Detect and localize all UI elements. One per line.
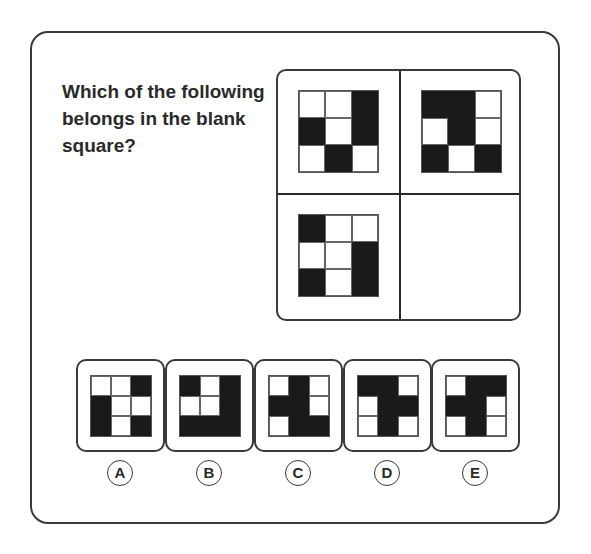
- filled-cell-r2c3: [352, 118, 378, 145]
- filled-cell-r2c2: [378, 396, 398, 416]
- empty-cell-r3c3: [398, 416, 418, 436]
- empty-cell-r1c1: [269, 376, 289, 396]
- matrix-cell-bottom-left: [298, 214, 379, 297]
- empty-cell-r3c1: [446, 416, 466, 436]
- empty-cell-r2c3: [309, 396, 329, 416]
- empty-cell-r1c2: [111, 376, 131, 396]
- filled-cell-r3c1: [91, 416, 111, 436]
- filled-cell-r1c2: [466, 376, 486, 396]
- filled-cell-r1c2: [378, 376, 398, 396]
- option-a-label[interactable]: A: [107, 460, 133, 486]
- filled-cell-r2c2: [448, 118, 474, 145]
- option-e-card[interactable]: [431, 359, 520, 452]
- filled-cell-r3c2: [466, 416, 486, 436]
- empty-cell-r2c2: [200, 396, 220, 416]
- filled-cell-r2c3: [352, 242, 378, 269]
- filled-cell-r2c3: [398, 396, 418, 416]
- empty-cell-r1c3: [398, 376, 418, 396]
- empty-cell-r2c1: [299, 242, 325, 269]
- option-c-label[interactable]: C: [285, 460, 311, 486]
- option-c-pattern: [268, 375, 330, 437]
- filled-cell-r1c1: [422, 91, 448, 118]
- empty-cell-r2c1: [358, 396, 378, 416]
- filled-cell-r3c1: [180, 416, 200, 436]
- filled-cell-r3c3: [131, 416, 151, 436]
- filled-cell-r1c1: [180, 376, 200, 396]
- empty-cell-r1c2: [325, 91, 351, 118]
- empty-cell-r1c1: [299, 91, 325, 118]
- filled-cell-r3c1: [422, 145, 448, 172]
- filled-cell-r1c3: [131, 376, 151, 396]
- filled-cell-r1c3: [220, 376, 240, 396]
- filled-cell-r2c2: [466, 396, 486, 416]
- empty-cell-r3c1: [358, 416, 378, 436]
- filled-cell-r3c3: [220, 416, 240, 436]
- empty-cell-r1c1: [91, 376, 111, 396]
- filled-cell-r1c3: [352, 91, 378, 118]
- option-a-pattern: [90, 375, 152, 437]
- filled-cell-r3c3: [352, 269, 378, 296]
- option-d-label[interactable]: D: [374, 460, 400, 486]
- empty-cell-r2c3: [475, 118, 501, 145]
- empty-cell-r1c3: [352, 215, 378, 242]
- empty-cell-r3c1: [299, 145, 325, 172]
- empty-cell-r1c2: [200, 376, 220, 396]
- empty-cell-r1c1: [446, 376, 466, 396]
- empty-cell-r2c1: [180, 396, 200, 416]
- filled-cell-r1c2: [448, 91, 474, 118]
- filled-cell-r3c1: [299, 269, 325, 296]
- filled-cell-r1c1: [299, 215, 325, 242]
- option-e-pattern: [445, 375, 507, 437]
- filled-cell-r1c2: [289, 376, 309, 396]
- filled-cell-r2c1: [299, 118, 325, 145]
- filled-cell-r2c1: [446, 396, 466, 416]
- matrix-cell-top-left: [298, 90, 379, 173]
- filled-cell-r3c2: [200, 416, 220, 436]
- option-e-label[interactable]: E: [462, 460, 488, 486]
- question-text: Which of the following belongs in the bl…: [62, 78, 267, 159]
- filled-cell-r2c2: [289, 396, 309, 416]
- empty-cell-r3c3: [352, 145, 378, 172]
- empty-cell-r1c3: [309, 376, 329, 396]
- empty-cell-r1c3: [475, 91, 501, 118]
- empty-cell-r3c2: [448, 145, 474, 172]
- option-b-label[interactable]: B: [196, 460, 222, 486]
- empty-cell-r3c2: [111, 416, 131, 436]
- filled-cell-r2c3: [220, 396, 240, 416]
- empty-cell-r3c2: [325, 269, 351, 296]
- matrix-cell-blank: [401, 195, 519, 319]
- option-b-pattern: [179, 375, 241, 437]
- option-a-card[interactable]: [76, 359, 165, 452]
- option-d-pattern: [357, 375, 419, 437]
- empty-cell-r2c2: [111, 396, 131, 416]
- filled-cell-r3c3: [309, 416, 329, 436]
- filled-cell-r3c2: [378, 416, 398, 436]
- empty-cell-r2c2: [325, 242, 351, 269]
- option-c-card[interactable]: [254, 359, 343, 452]
- filled-cell-r3c3: [475, 145, 501, 172]
- empty-cell-r1c2: [325, 215, 351, 242]
- filled-cell-r1c1: [358, 376, 378, 396]
- filled-cell-r3c2: [289, 416, 309, 436]
- filled-cell-r3c2: [325, 145, 351, 172]
- pattern-matrix: [276, 69, 521, 321]
- option-d-card[interactable]: [343, 359, 432, 452]
- option-b-card[interactable]: [165, 359, 254, 452]
- matrix-cell-top-right: [421, 90, 502, 173]
- filled-cell-r2c1: [269, 396, 289, 416]
- empty-cell-r3c3: [486, 416, 506, 436]
- filled-cell-r2c1: [91, 396, 111, 416]
- empty-cell-r2c2: [325, 118, 351, 145]
- empty-cell-r3c1: [269, 416, 289, 436]
- empty-cell-r2c3: [131, 396, 151, 416]
- empty-cell-r2c3: [486, 396, 506, 416]
- filled-cell-r1c3: [486, 376, 506, 396]
- empty-cell-r2c1: [422, 118, 448, 145]
